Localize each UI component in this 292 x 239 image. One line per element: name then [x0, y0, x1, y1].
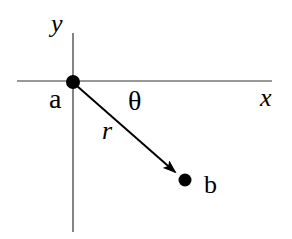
y-axis-label: y: [48, 9, 63, 38]
point-a: [66, 75, 80, 89]
x-axis-label: x: [259, 83, 272, 112]
vector-r-arrow: [77, 86, 175, 172]
point-a-label: a: [49, 83, 62, 114]
angle-theta-label: θ: [128, 85, 141, 116]
point-b: [179, 174, 192, 187]
point-b-label: b: [204, 170, 217, 199]
vector-r-label: r: [102, 116, 113, 145]
polar-coordinate-diagram: y x a b θ r: [0, 0, 292, 239]
